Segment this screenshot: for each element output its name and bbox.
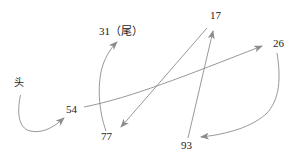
edge-77-to-31 <box>99 42 117 131</box>
diagram-canvas: 头 54 31（尾） 17 26 77 93 <box>0 0 301 160</box>
node-label-17: 17 <box>210 10 221 21</box>
node-label-31-tail: 31（尾） <box>99 26 143 37</box>
node-label-77: 77 <box>101 131 112 142</box>
node-label-26: 26 <box>273 38 284 49</box>
node-label-54: 54 <box>66 104 77 115</box>
edge-93-to-17 <box>188 31 213 138</box>
link-arrows-svg <box>0 0 301 160</box>
node-label-head: 头 <box>14 78 24 88</box>
node-label-93: 93 <box>181 140 192 151</box>
edge-54-to-26 <box>84 46 262 107</box>
edge-head-to-54 <box>19 95 64 132</box>
